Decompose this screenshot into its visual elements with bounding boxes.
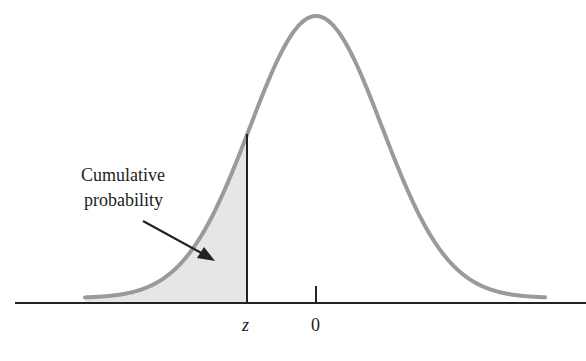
zero-label: 0 — [311, 316, 320, 334]
annotation-line1: Cumulative — [81, 166, 165, 184]
normal-curve — [85, 16, 545, 297]
annotation-line2: probability — [84, 191, 163, 209]
z-label: z — [242, 316, 249, 334]
normal-distribution-figure: Cumulative probability z 0 — [0, 0, 586, 361]
